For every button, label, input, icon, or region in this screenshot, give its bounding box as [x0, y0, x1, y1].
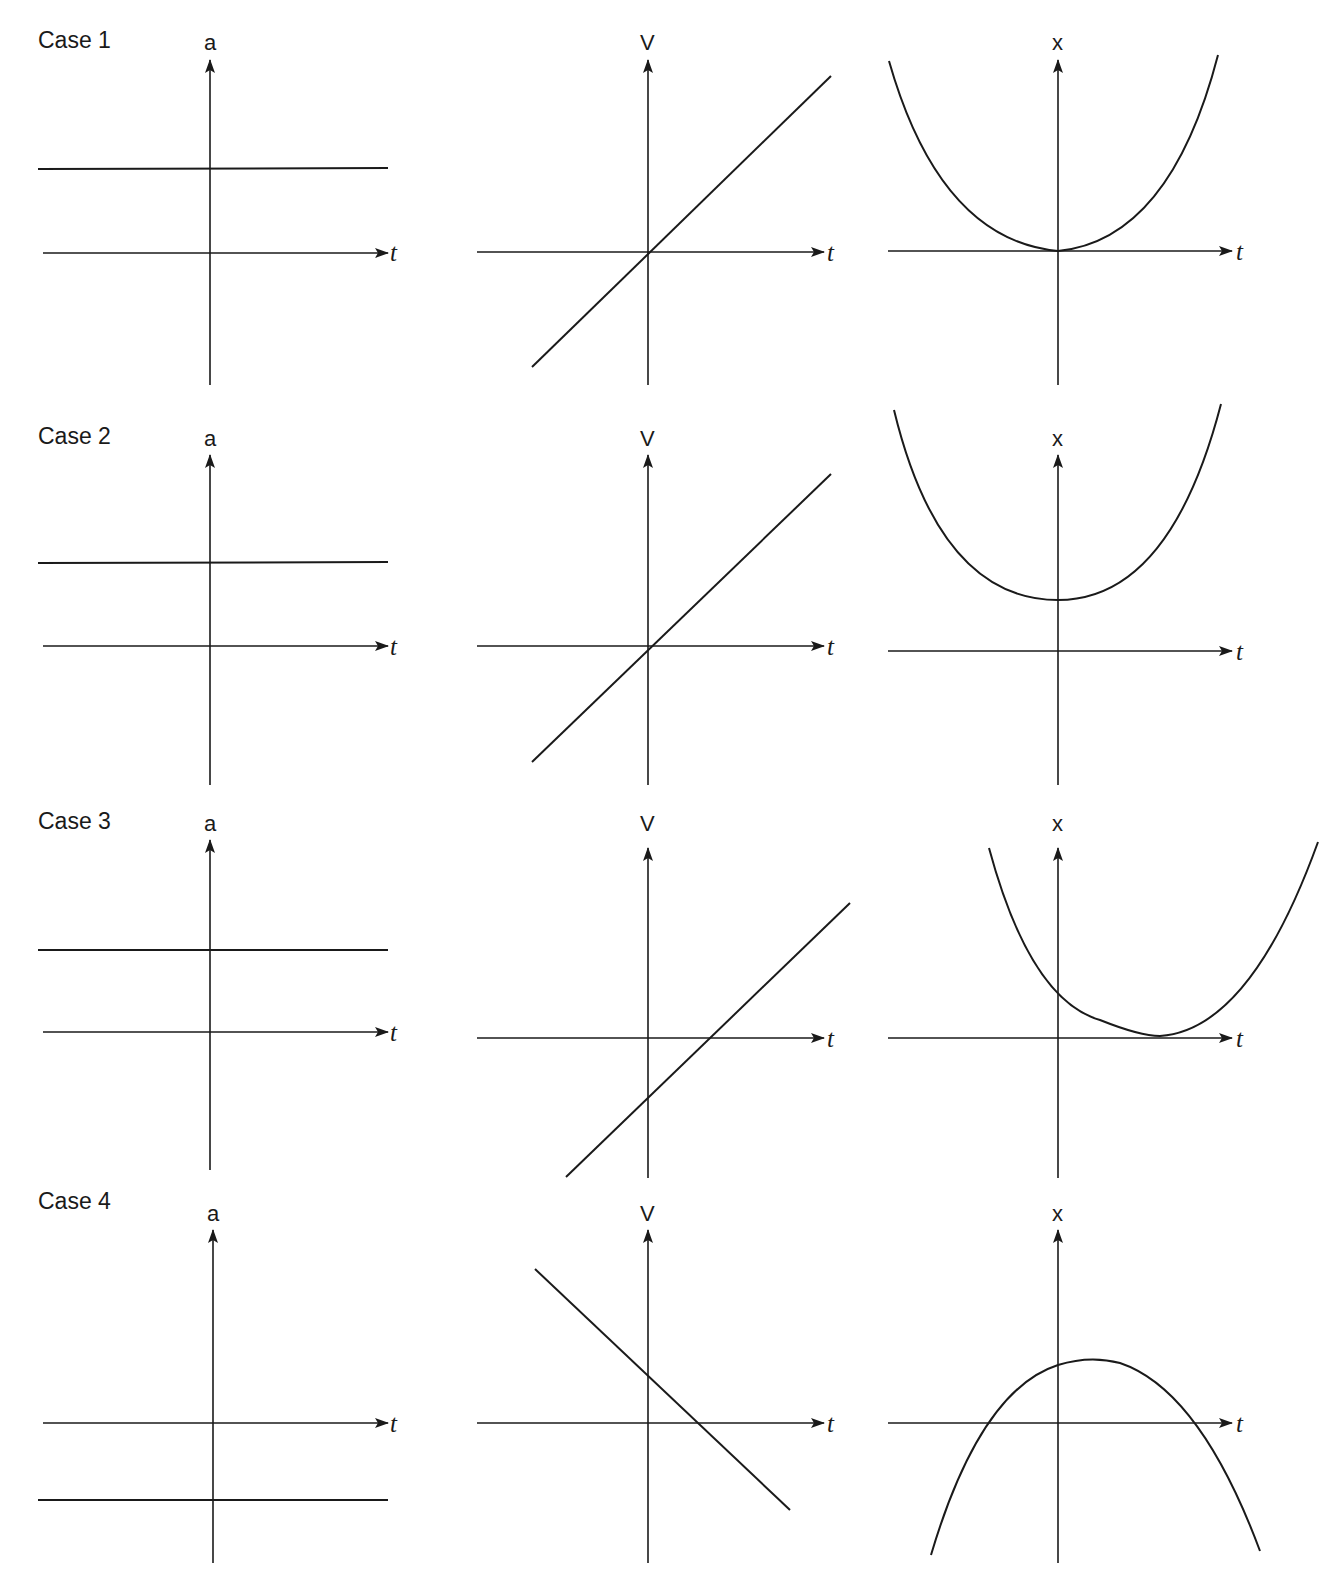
- case-3-position-graph: x t: [888, 811, 1318, 1178]
- t-axis-label: t: [390, 239, 398, 266]
- a-axis-label: a: [204, 811, 217, 836]
- v-axis-label: V: [640, 1201, 655, 1226]
- case-label: Case 3: [38, 808, 111, 834]
- case-2-position-graph: x t: [888, 404, 1244, 785]
- case-4-position-graph: x t: [888, 1201, 1260, 1563]
- t-axis-label: t: [1236, 638, 1244, 665]
- t-axis-label: t: [827, 1025, 835, 1052]
- case-label: Case 2: [38, 423, 111, 449]
- x-axis-label: x: [1052, 30, 1063, 55]
- v-axis-label: V: [640, 426, 655, 451]
- t-axis-label: t: [1236, 1025, 1244, 1052]
- position-curve: [989, 842, 1318, 1036]
- t-axis-label: t: [390, 633, 398, 660]
- case-3-row: Case 3 a t V t x t: [38, 808, 1318, 1178]
- a-axis-label: a: [204, 30, 217, 55]
- case-2-row: Case 2 a t V t x t: [38, 404, 1244, 785]
- t-axis-label: t: [1236, 238, 1244, 265]
- velocity-line: [532, 474, 831, 762]
- case-2-acceleration-graph: a t: [38, 426, 398, 785]
- t-axis-label: t: [827, 633, 835, 660]
- acceleration-line: [38, 562, 388, 563]
- a-axis-label: a: [204, 426, 217, 451]
- x-axis-label: x: [1052, 811, 1063, 836]
- case-3-acceleration-graph: a t: [38, 811, 398, 1170]
- case-label: Case 4: [38, 1188, 111, 1214]
- v-axis-label: V: [640, 30, 655, 55]
- x-axis-label: x: [1052, 1201, 1063, 1226]
- velocity-line: [535, 1269, 790, 1510]
- kinematics-figure: Case 1 a t V t x t Case 2: [0, 0, 1339, 1589]
- velocity-line: [566, 903, 850, 1177]
- velocity-line: [532, 76, 831, 367]
- position-curve: [931, 1359, 1260, 1555]
- case-label: Case 1: [38, 27, 111, 53]
- acceleration-line: [38, 168, 388, 169]
- a-axis-label: a: [207, 1201, 220, 1226]
- t-axis-label: t: [390, 1019, 398, 1046]
- case-2-velocity-graph: V t: [477, 426, 835, 785]
- case-3-velocity-graph: V t: [477, 811, 850, 1178]
- t-axis-label: t: [1236, 1410, 1244, 1437]
- t-axis-label: t: [390, 1410, 398, 1437]
- case-4-acceleration-graph: a t: [38, 1201, 398, 1563]
- position-curve: [889, 55, 1218, 251]
- case-1-velocity-graph: V t: [477, 30, 835, 385]
- case-4-row: Case 4 a t V t x t: [38, 1188, 1260, 1563]
- t-axis-label: t: [827, 239, 835, 266]
- case-4-velocity-graph: V t: [477, 1201, 835, 1563]
- v-axis-label: V: [640, 811, 655, 836]
- case-1-acceleration-graph: a t: [38, 30, 398, 385]
- t-axis-label: t: [827, 1410, 835, 1437]
- case-1-position-graph: x t: [888, 30, 1244, 385]
- x-axis-label: x: [1052, 426, 1063, 451]
- case-1-row: Case 1 a t V t x t: [38, 27, 1244, 385]
